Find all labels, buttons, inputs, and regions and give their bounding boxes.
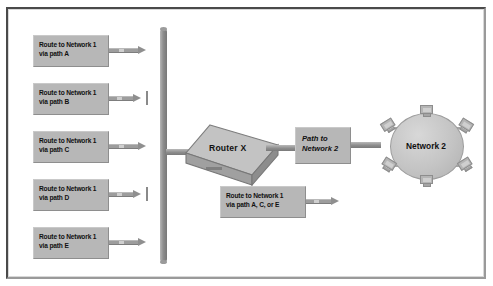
router-icon (184, 123, 280, 195)
network-node-top[interactable] (420, 105, 433, 117)
path-to-network-box[interactable]: Path to Network 2 (295, 127, 351, 164)
router-path-link (266, 145, 296, 151)
router-x-label: Router X (209, 143, 246, 153)
route-box-d-line1: Route to Network 1 (39, 185, 108, 194)
route-box-c-line2: via path C (39, 146, 108, 155)
selected-route-line1: Route to Network 1 (226, 192, 305, 201)
diagram-canvas: Route to Network 1 via path A Route to N… (0, 0, 493, 286)
route-box-d[interactable]: Route to Network 1 via path D (33, 179, 109, 211)
route-box-c-line1: Route to Network 1 (39, 137, 108, 146)
route-box-e-line1: Route to Network 1 (39, 233, 108, 242)
route-arrow-d (109, 190, 141, 199)
backbone-bottom-cap (160, 260, 167, 264)
route-box-d-line2: via path D (39, 194, 108, 203)
route-arrow-b (109, 94, 141, 103)
route-arrow-a (109, 46, 146, 55)
selected-route-arrow (306, 197, 339, 206)
workstation-base (423, 184, 431, 187)
route-box-b-line2: via path B (39, 98, 108, 107)
selected-route-box[interactable]: Route to Network 1 via path A, C, or E (220, 186, 306, 218)
route-box-e-line2: via path E (39, 242, 108, 251)
selected-route-line2: via path A, C, or E (226, 201, 305, 210)
route-box-a-line2: via path A (39, 50, 108, 59)
network-2-label: Network 2 (406, 141, 446, 151)
workstation-icon (420, 175, 433, 184)
route-box-c[interactable]: Route to Network 1 via path C (33, 131, 109, 163)
workstation-base (423, 114, 431, 117)
route-barrier-b (146, 91, 148, 105)
route-arrow-e (109, 238, 146, 247)
backbone-top-cap (160, 27, 167, 31)
route-box-e[interactable]: Route to Network 1 via path E (33, 227, 109, 259)
route-box-b[interactable]: Route to Network 1 via path B (33, 83, 109, 115)
network-backbone-bus (160, 29, 167, 262)
path-box-line1: Path to (302, 134, 350, 144)
route-box-b-line1: Route to Network 1 (39, 89, 108, 98)
route-arrow-c (109, 142, 146, 151)
route-box-a[interactable]: Route to Network 1 via path A (33, 35, 109, 67)
route-box-a-line1: Route to Network 1 (39, 41, 108, 50)
router-x-device[interactable]: Router X (184, 123, 280, 195)
path-box-line2: Network 2 (302, 144, 350, 154)
workstation-icon (420, 105, 433, 114)
diagram-frame: Route to Network 1 via path A Route to N… (6, 7, 486, 279)
network-node-bottom[interactable] (420, 175, 433, 187)
path-network-link (351, 142, 381, 148)
route-barrier-d (146, 187, 148, 201)
